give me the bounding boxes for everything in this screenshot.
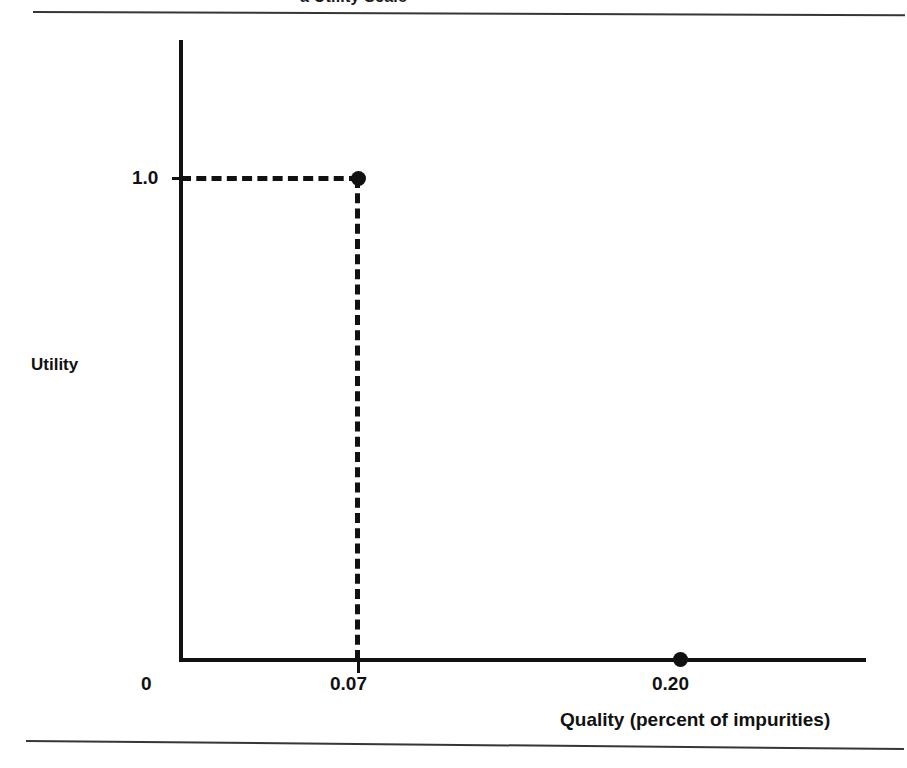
x-tick-label-0.07: 0.07 bbox=[330, 673, 367, 695]
figure-title: a Utility Scale bbox=[300, 0, 620, 8]
x-tick-label-0: 0 bbox=[141, 673, 152, 695]
y-tick-label-1.0: 1.0 bbox=[132, 167, 158, 189]
x-axis-line bbox=[179, 658, 866, 662]
y-axis-title: Utility bbox=[31, 355, 78, 375]
data-point-0.07 bbox=[351, 171, 366, 186]
page-rule-bottom bbox=[26, 740, 904, 750]
page-rule-top bbox=[33, 11, 905, 16]
data-point-0.20 bbox=[673, 652, 688, 667]
x-tick-label-0.20: 0.20 bbox=[652, 673, 689, 695]
dashed-guide-vertical bbox=[355, 178, 360, 660]
y-axis-line bbox=[179, 40, 183, 662]
x-axis-tick-0.07 bbox=[357, 662, 360, 673]
x-axis-title: Quality (percent of impurities) bbox=[560, 709, 830, 731]
dashed-guide-horizontal bbox=[181, 176, 359, 181]
figure-container: a Utility Scale 1.0 0 0.07 0.20 Utility … bbox=[0, 0, 907, 768]
